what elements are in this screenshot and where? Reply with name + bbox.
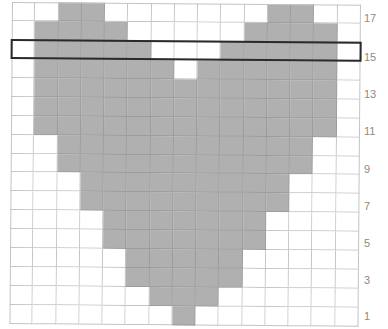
grid-cell [34, 135, 57, 154]
grid-cell [79, 306, 102, 325]
grid-cell [314, 99, 337, 118]
grid-cell [173, 174, 196, 193]
grid-cell [33, 267, 56, 286]
grid-cell [103, 230, 126, 249]
grid-cell [290, 118, 313, 137]
grid-cell [289, 307, 312, 326]
grid-cell [314, 4, 337, 23]
grid-cell [127, 98, 150, 117]
grid-cell [244, 23, 267, 42]
grid-cell [103, 249, 126, 268]
grid-cell [267, 42, 290, 61]
grid-cell [104, 116, 127, 135]
grid-cell [103, 268, 126, 287]
grid-cell [33, 305, 56, 324]
grid-cell [79, 287, 102, 306]
grid-cell [267, 118, 290, 137]
grid-cell [337, 99, 360, 118]
grid-cell [11, 153, 34, 172]
grid-cell [220, 193, 243, 212]
grid-cell [35, 59, 58, 78]
grid-cell [242, 288, 265, 307]
grid-cell [33, 229, 56, 248]
grid-cell [128, 79, 151, 98]
grid-cell [33, 286, 56, 305]
grid-cell [267, 137, 290, 156]
grid-cell [56, 267, 79, 286]
grid-cell [197, 117, 220, 136]
grid-cell [337, 42, 360, 61]
grid-cell [174, 41, 197, 60]
grid-cell [150, 174, 173, 193]
grid-cell [128, 60, 151, 79]
row-label-7: 7 [364, 200, 386, 212]
grid-cell [335, 289, 358, 308]
grid-cell [151, 60, 174, 79]
grid-cell [198, 22, 221, 41]
grid-cell [174, 98, 197, 117]
grid-cell [314, 42, 337, 61]
grid-cell [34, 192, 57, 211]
grid-cell [151, 41, 174, 60]
grid-cell [174, 155, 197, 174]
grid-cell [243, 231, 266, 250]
grid-cell [290, 194, 313, 213]
grid-cell [150, 155, 173, 174]
grid-cell [58, 78, 81, 97]
grid-cell [313, 137, 336, 156]
grid-cell [58, 59, 81, 78]
grid-cell [221, 42, 244, 61]
grid-cell [56, 305, 79, 324]
grid-cell [172, 287, 195, 306]
grid-cell [34, 116, 57, 135]
grid-cell [313, 118, 336, 137]
grid-cell [81, 97, 104, 116]
grid-cell [291, 4, 314, 23]
grid-cell [81, 78, 104, 97]
grid-cell [57, 116, 80, 135]
grid-cell [197, 98, 220, 117]
grid-cell [150, 136, 173, 155]
grid-cell [149, 287, 172, 306]
grid-cell [312, 288, 335, 307]
grid-cell [151, 22, 174, 41]
grid-cell [80, 268, 103, 287]
grid-cell [335, 270, 358, 289]
grid-cell [290, 156, 313, 175]
grid-cell [243, 174, 266, 193]
grid-cell [35, 78, 58, 97]
grid-cell [126, 249, 149, 268]
grid-cell [313, 194, 336, 213]
grid-cell [11, 116, 34, 135]
grid-cell [313, 156, 336, 175]
grid-cell [175, 22, 198, 41]
grid-cell [336, 232, 359, 251]
grid-cell [291, 42, 314, 61]
grid-cell [10, 191, 33, 210]
grid-cell [34, 154, 57, 173]
grid-cell [243, 250, 266, 269]
grid-cell [172, 306, 195, 325]
grid-cell [337, 118, 360, 137]
grid-cell [11, 135, 34, 154]
grid-cell [245, 4, 268, 23]
grid-cell [266, 174, 289, 193]
grid-cell [312, 251, 335, 270]
grid-cell [244, 117, 267, 136]
row-label-15: 15 [364, 51, 386, 63]
grid-cell [9, 305, 32, 324]
grid-cell [103, 306, 126, 325]
grid-cell [34, 97, 57, 116]
grid-cell [150, 192, 173, 211]
grid-cell [313, 175, 336, 194]
grid-cell [57, 230, 80, 249]
grid-cell [104, 97, 127, 116]
grid-cell [337, 137, 360, 156]
grid-cell [80, 249, 103, 268]
grid-cell [104, 173, 127, 192]
grid-cell [81, 116, 104, 135]
grid-cell [151, 117, 174, 136]
grid-cell [126, 287, 149, 306]
grid-cell [150, 211, 173, 230]
grid-cell [11, 59, 34, 78]
